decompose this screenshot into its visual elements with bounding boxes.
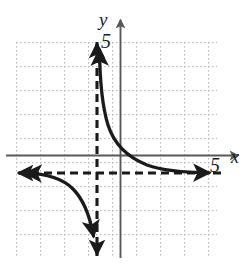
- y-axis-tick-label-5: 5: [101, 31, 111, 51]
- x-axis-tick-label-5: 5: [210, 155, 220, 175]
- x-axis-label: x: [231, 148, 239, 166]
- grid-dots: [16, 42, 217, 256]
- y-axis-label: y: [99, 10, 107, 29]
- coordinate-plane: [0, 0, 251, 264]
- graph-figure: y x 5 5: [0, 0, 251, 264]
